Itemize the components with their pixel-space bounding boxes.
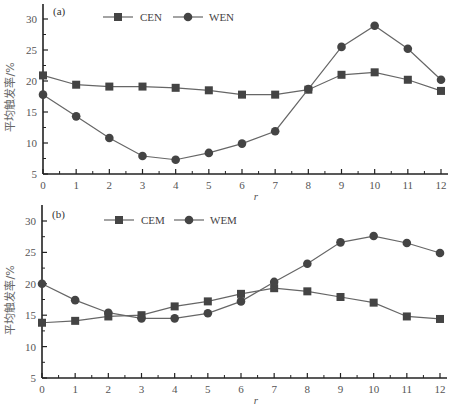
y-axis-title: 平均触发率/%	[3, 62, 17, 131]
circle-marker	[171, 155, 180, 164]
y-tick-label: 10	[25, 341, 37, 353]
legend-label: CEN	[140, 11, 162, 23]
y-tick-label: 15	[26, 106, 38, 118]
legend-label: WEM	[210, 214, 237, 226]
square-marker	[139, 83, 147, 91]
x-tick-label: 2	[106, 383, 112, 395]
panel-label: (a)	[53, 5, 66, 18]
x-tick-label: 1	[72, 383, 78, 395]
square-marker	[404, 76, 412, 84]
legend-item-cem: CEM	[104, 214, 165, 226]
x-tick-label: 3	[140, 179, 146, 191]
square-marker	[437, 87, 445, 95]
x-tick-label: 6	[238, 383, 244, 395]
x-tick-label: 9	[339, 179, 345, 191]
square-marker	[171, 302, 179, 310]
circle-marker	[104, 308, 113, 317]
x-tick-label: 12	[435, 383, 446, 395]
chart-panel-a: 510152025300123456789101112r平均触发率/%(a)CE…	[3, 4, 448, 202]
circle-marker	[336, 238, 345, 247]
x-tick-label: 4	[173, 179, 179, 191]
circle-marker	[38, 280, 47, 289]
panel-label: (b)	[52, 208, 65, 221]
circle-marker	[403, 239, 412, 248]
circle-marker	[105, 134, 114, 143]
x-tick-label: 11	[402, 383, 413, 395]
square-marker	[71, 317, 79, 325]
circle-marker	[237, 297, 246, 306]
circle-marker	[271, 127, 280, 136]
square-marker	[172, 84, 180, 92]
square-marker	[72, 81, 80, 89]
x-axis-title: r	[254, 394, 259, 406]
circle-marker	[204, 309, 213, 318]
circle-marker	[71, 296, 80, 305]
square-marker	[38, 319, 46, 327]
x-tick-label: 4	[172, 383, 178, 395]
legend-item-wem: WEM	[174, 214, 237, 226]
y-tick-label: 10	[26, 137, 38, 149]
x-tick-label: 11	[403, 179, 414, 191]
x-tick-label: 7	[272, 179, 278, 191]
circle-marker	[304, 85, 313, 94]
legend-item-cen: CEN	[103, 11, 162, 23]
circle-marker	[270, 278, 279, 287]
circle-marker	[337, 43, 346, 52]
circle-marker	[138, 152, 147, 161]
y-tick-label: 20	[26, 75, 38, 87]
circle-marker-icon	[184, 13, 193, 22]
x-axis-title: r	[254, 190, 259, 202]
y-tick-label: 30	[25, 215, 37, 227]
circle-marker	[39, 90, 48, 99]
square-marker	[370, 299, 378, 307]
x-tick-label: 0	[39, 383, 45, 395]
square-marker	[371, 68, 379, 76]
line-chart-figure: 510152025300123456789101112r平均触发率/%(a)CE…	[0, 0, 461, 415]
square-marker	[237, 290, 245, 298]
circle-marker	[72, 112, 81, 121]
x-tick-label: 9	[338, 383, 344, 395]
x-tick-label: 2	[107, 179, 113, 191]
circle-marker	[369, 232, 378, 241]
square-marker	[403, 312, 411, 320]
x-tick-label: 8	[306, 179, 312, 191]
y-tick-label: 5	[32, 168, 38, 180]
x-tick-label: 7	[271, 383, 277, 395]
x-tick-label: 6	[239, 179, 245, 191]
circle-marker	[370, 22, 379, 31]
y-tick-label: 25	[26, 44, 38, 56]
square-marker	[238, 91, 246, 99]
figure: 510152025300123456789101112r平均触发率/%(a)CE…	[0, 0, 461, 415]
circle-marker	[436, 249, 445, 258]
circle-marker	[437, 75, 446, 84]
circle-marker	[238, 139, 247, 148]
y-tick-label: 25	[25, 246, 37, 258]
legend-label: CEM	[141, 214, 165, 226]
y-tick-label: 30	[26, 13, 38, 25]
circle-marker	[404, 44, 413, 53]
square-marker	[39, 71, 47, 79]
x-tick-label: 12	[436, 179, 447, 191]
circle-marker	[170, 314, 179, 323]
square-marker	[204, 297, 212, 305]
x-tick-label: 10	[368, 383, 380, 395]
y-tick-label: 5	[31, 372, 37, 384]
square-marker	[105, 83, 113, 91]
square-marker	[337, 293, 345, 301]
legend-item-wen: WEN	[173, 11, 234, 23]
x-tick-label: 8	[305, 383, 311, 395]
legend-label: WEN	[209, 11, 234, 23]
circle-marker-icon	[185, 216, 194, 225]
x-tick-label: 5	[205, 383, 211, 395]
square-marker-icon	[115, 216, 123, 224]
square-marker	[303, 287, 311, 295]
x-tick-label: 10	[369, 179, 381, 191]
x-tick-label: 3	[139, 383, 145, 395]
x-tick-label: 1	[73, 179, 79, 191]
square-marker	[338, 71, 346, 79]
square-marker-icon	[114, 13, 122, 21]
circle-marker	[137, 314, 146, 323]
y-tick-label: 15	[25, 309, 37, 321]
x-tick-label: 5	[206, 179, 212, 191]
square-marker	[271, 91, 279, 99]
